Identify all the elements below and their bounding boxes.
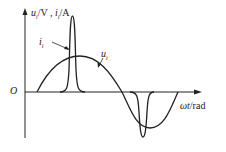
current-curve-label: ii xyxy=(39,36,43,49)
x-axis-label: ωt/rad xyxy=(180,100,205,111)
y-axis-label: ui/V , ii/A xyxy=(31,7,69,20)
x-label-var: ωt xyxy=(180,100,190,111)
waveform-diagram xyxy=(0,0,226,152)
current-label-sub: i xyxy=(42,43,44,49)
x-axis-arrow-icon xyxy=(194,90,202,95)
y-axis-arrow-icon xyxy=(23,8,28,15)
y-label-unit-a: /A xyxy=(59,7,69,18)
current-pulse-positive xyxy=(60,16,85,92)
origin-label: O xyxy=(10,85,17,96)
voltage-label-sub: i xyxy=(106,55,108,61)
voltage-curve-label: ui xyxy=(101,48,108,61)
x-label-unit: /rad xyxy=(190,100,206,111)
y-label-unit-v: /V , xyxy=(38,7,55,18)
